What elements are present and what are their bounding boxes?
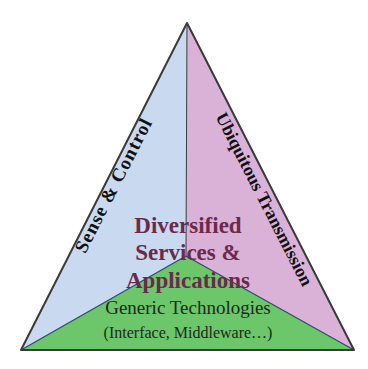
generic-technologies-label: Generic Technologies bbox=[105, 297, 271, 318]
center-label-line3: Applications bbox=[126, 268, 250, 293]
iot-triangle-diagram: Sense & Control Ubiquitous Transmission … bbox=[0, 0, 368, 369]
generic-technologies-sublabel: (Interface, Middleware…) bbox=[104, 324, 273, 342]
center-label-line2: Services & bbox=[135, 240, 240, 265]
center-label-line1: Diversified bbox=[134, 213, 242, 238]
